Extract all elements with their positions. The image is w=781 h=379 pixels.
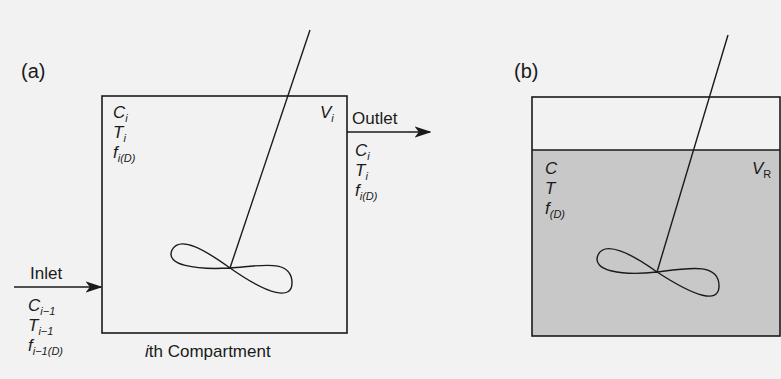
impeller-icon [171, 244, 292, 293]
volume-vr: VR [752, 160, 771, 183]
inlet-f: fi−1(D) [28, 337, 63, 360]
compartment-box [102, 96, 347, 333]
liquid-fill [532, 150, 780, 336]
volume-vi: Vi [320, 104, 334, 127]
reactor-f: f(D) [545, 200, 565, 223]
reactor-t: T [545, 180, 555, 198]
compartment-caption: ith Compartment [145, 343, 271, 361]
diagram-canvas [0, 0, 781, 379]
inlet-label: Inlet [30, 265, 62, 283]
stirrer-shaft [230, 30, 310, 268]
reactor-c: C [545, 160, 557, 178]
inside-f: fi(D) [113, 144, 135, 167]
outlet-label: Outlet [352, 110, 397, 128]
outlet-f: fi(D) [355, 182, 377, 205]
panel-a-label: (a) [21, 62, 45, 80]
panel-b-label: (b) [514, 62, 538, 80]
